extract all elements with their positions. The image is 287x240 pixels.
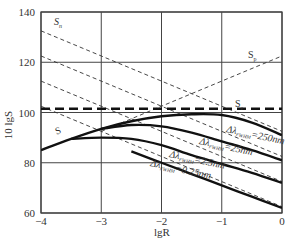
x-tick-label: −4 — [35, 215, 47, 227]
annotation-sp: Sp — [248, 49, 257, 62]
y-tick-label: 120 — [19, 56, 36, 68]
svg-text:S: S — [53, 124, 62, 136]
annotation-sn: Sn — [54, 16, 62, 29]
y-axis-title: 10 lgS — [2, 111, 14, 139]
y-tick-label: 140 — [19, 6, 36, 18]
x-tick-label: −3 — [95, 215, 107, 227]
grid-lines — [41, 12, 282, 213]
svg-text:Sn: Sn — [54, 16, 62, 29]
x-axis-title: lgR — [154, 226, 171, 238]
x-tick-label: 0 — [279, 215, 285, 227]
annotation-s: S — [53, 124, 62, 136]
y-tick-label: 60 — [24, 207, 36, 219]
y-tick-label: 80 — [24, 157, 36, 169]
svg-text:Sp: Sp — [248, 49, 257, 62]
y-tick-label: 100 — [19, 107, 36, 119]
x-tick-label: −1 — [216, 215, 228, 227]
chart: −4−3−2−106080100120140 lgR 10 lgS Sn Sp … — [0, 0, 287, 240]
